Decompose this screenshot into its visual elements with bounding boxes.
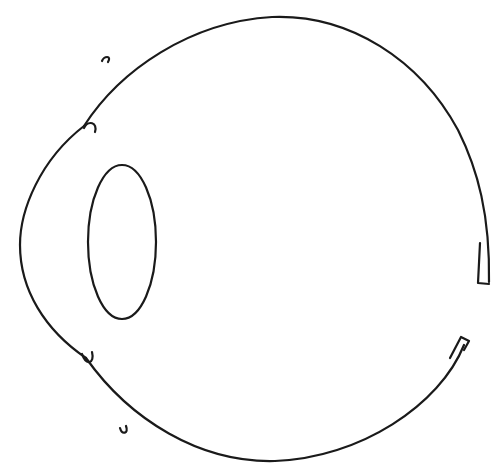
label-tick-bottom — [120, 426, 127, 433]
ciliary-hook-bottom — [82, 352, 93, 362]
sclera-outline-lower — [86, 345, 464, 461]
sclera-outline-upper — [84, 17, 489, 282]
ciliary-hook-top — [84, 123, 96, 132]
label-tick-top — [102, 57, 109, 62]
cornea — [20, 126, 86, 358]
lens — [88, 165, 156, 319]
eye-diagram-svg — [0, 0, 502, 475]
eye-diagram — [0, 0, 502, 475]
